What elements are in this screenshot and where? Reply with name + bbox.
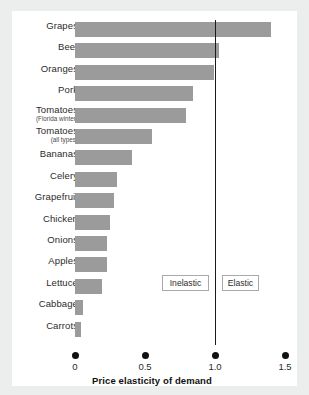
bar-row: Bananas xyxy=(12,148,297,169)
annotation-elastic: Elastic xyxy=(222,275,259,291)
bar-row: Celery xyxy=(12,170,297,191)
bar-category-sublabel: (Florida winter) xyxy=(0,115,78,122)
annotation-elastic-label: Elastic xyxy=(228,278,253,288)
x-axis-tick-marker xyxy=(72,352,79,359)
bar xyxy=(75,215,110,230)
annotation-inelastic: Inelastic xyxy=(162,275,209,291)
x-axis-tick-label: 0 xyxy=(55,361,95,372)
x-axis-title: Price elasticity of demand xyxy=(12,375,292,386)
bar xyxy=(75,150,132,165)
bar-category-label: Chicken xyxy=(0,213,78,224)
bar-category-label: Bananas xyxy=(0,148,78,159)
x-axis-tick-label: 1.5 xyxy=(265,361,305,372)
x-axis-tick-marker xyxy=(282,352,289,359)
bar-category-label: Cabbage xyxy=(0,298,78,309)
bar xyxy=(75,322,81,337)
bar-category-label: Oranges xyxy=(0,63,78,74)
bar-category-label: Beef xyxy=(0,41,78,52)
bar-category-label: Pork xyxy=(0,84,78,95)
bar-row: Pork xyxy=(12,84,297,105)
bar xyxy=(75,65,214,80)
bar-row: Cabbage xyxy=(12,298,297,319)
bar-category-label: Tomatoes(Florida winter) xyxy=(0,104,78,122)
bar-row: Onions xyxy=(12,234,297,255)
bar-row: Grapefruit xyxy=(12,191,297,212)
bar xyxy=(75,22,271,37)
bar xyxy=(75,236,107,251)
bar xyxy=(75,257,107,272)
x-axis-tick-label: 0.5 xyxy=(125,361,165,372)
bar-category-label: Tomatoes(all types) xyxy=(0,125,78,143)
bar-category-label: Celery xyxy=(0,170,78,181)
bar xyxy=(75,129,152,144)
bar xyxy=(75,193,114,208)
annotation-inelastic-label: Inelastic xyxy=(170,278,202,288)
unit-elastic-reference-line xyxy=(215,20,216,345)
x-axis-tick-marker xyxy=(212,352,219,359)
bar-category-label: Apples xyxy=(0,255,78,266)
plot-area: GrapesBeefOrangesPorkTomatoes(Florida wi… xyxy=(12,11,297,386)
bar-category-label: Onions xyxy=(0,234,78,245)
chart-figure: GrapesBeefOrangesPorkTomatoes(Florida wi… xyxy=(0,0,309,395)
chart-panel: GrapesBeefOrangesPorkTomatoes(Florida wi… xyxy=(12,11,297,386)
x-axis-tick-label: 1.0 xyxy=(195,361,235,372)
bar-row: Apples xyxy=(12,255,297,276)
bar-row: Chicken xyxy=(12,213,297,234)
bar-row: Tomatoes(all types) xyxy=(12,127,297,148)
bar xyxy=(75,86,193,101)
bar-row: Tomatoes(Florida winter) xyxy=(12,106,297,127)
bar xyxy=(75,172,117,187)
bar-category-label: Grapes xyxy=(0,20,78,31)
bar xyxy=(75,108,186,123)
bar xyxy=(75,279,102,294)
bar-category-label: Grapefruit xyxy=(0,191,78,202)
bar xyxy=(75,300,83,315)
bar-category-sublabel: (all types) xyxy=(0,136,78,143)
bar-row: Carrots xyxy=(12,320,297,341)
bar-row: Oranges xyxy=(12,63,297,84)
bar-category-label: Lettuce xyxy=(0,277,78,288)
bar-row: Beef xyxy=(12,41,297,62)
bar-category-label: Carrots xyxy=(0,320,78,331)
x-axis-tick-marker xyxy=(142,352,149,359)
bar-row: Grapes xyxy=(12,20,297,41)
bar xyxy=(75,43,219,58)
